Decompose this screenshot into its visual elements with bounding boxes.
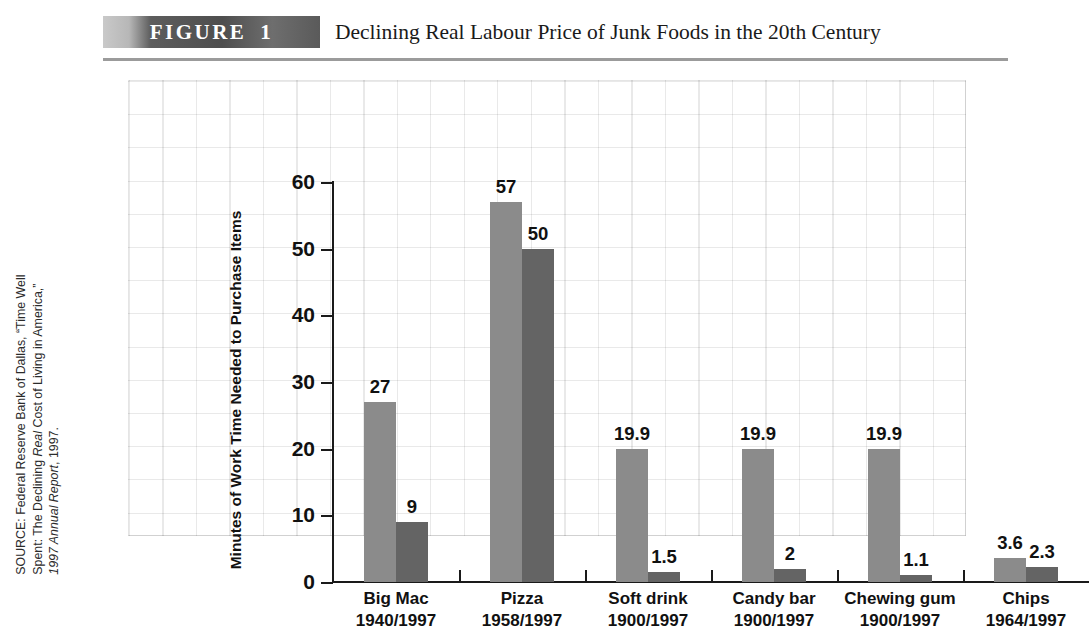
category-years: 1964/1997 [986,610,1066,630]
bar-series2 [648,572,680,582]
x-axis-category-label: Candy bar1900/1997 [732,588,815,630]
category-years: 1940/1997 [356,610,436,630]
bar-value-label: 19.9 [614,423,650,445]
bar-value-label: 57 [496,176,517,198]
y-axis-tick-label: 20 [257,437,315,461]
y-axis-tick-label: 60 [257,170,315,194]
chart-plot-frame: Minutes of Work Time Needed to Purchase … [128,80,966,536]
bar-series2 [774,569,806,582]
bar-series1 [868,449,900,582]
bar-series1 [490,202,522,582]
x-axis-category-label: Pizza1958/1997 [482,588,562,630]
bar-series2 [1026,567,1058,582]
figure-badge: FIGURE 1 [103,16,320,48]
category-name: Pizza [482,588,562,610]
x-axis-category-label: Big Mac1940/1997 [356,588,436,630]
category-name: Big Mac [356,588,436,610]
bar-series2 [396,522,428,582]
y-axis-tick-label: 50 [257,237,315,261]
category-years: 1900/1997 [844,610,955,630]
bar-series1 [742,449,774,582]
bar-group: 5750 [490,182,554,582]
y-axis-tick-label: 40 [257,303,315,327]
bar-value-label: 1.1 [903,549,929,571]
bar-group: 19.91.1 [868,182,932,582]
y-axis-tick-label: 10 [257,503,315,527]
bar-series1 [994,558,1026,582]
source-note-line-1: SOURCE: Federal Reserve Bank of Dallas, … [13,75,30,575]
source-note-line-2-c: Cost of Living in America,” [31,284,45,431]
x-axis-tick [459,570,461,583]
category-years: 1958/1997 [482,610,562,630]
category-name: Chewing gum [844,588,955,610]
figure-header: FIGURE 1 Declining Real Labour Price of … [103,16,1008,68]
bar-value-label: 1.5 [651,546,677,568]
bar-value-label: 27 [370,376,391,398]
x-axis-tick [585,570,587,583]
x-axis-tick [837,570,839,583]
bar-series2 [900,575,932,582]
bar-series1 [364,402,396,582]
bar-value-label: 3.6 [997,532,1023,554]
x-axis-category-label: Soft drink1900/1997 [608,588,688,630]
category-name: Soft drink [608,588,688,610]
y-axis-tick-label: 0 [257,570,315,594]
source-note-line-3-italic: 1997 Annual Report [47,465,61,575]
x-axis-tick [711,570,713,583]
y-axis-title: Minutes of Work Time Needed to Purchase … [227,175,245,605]
source-note-line-3: 1997 Annual Report, 1997. [46,75,63,575]
bar-group: 19.91.5 [616,182,680,582]
source-note-line-2-a: Spent: The Declining [31,457,45,575]
category-name: Candy bar [732,588,815,610]
source-note: SOURCE: Federal Reserve Bank of Dallas, … [13,75,63,575]
bar-group: 19.92 [742,182,806,582]
y-axis-tick-label: 30 [257,370,315,394]
header-divider [103,58,1008,61]
plot-area: 279575019.91.519.9219.91.13.62.3 [333,182,1089,582]
bar-value-label: 50 [528,223,549,245]
figure-badge-word: FIGURE [150,20,261,45]
source-note-line-2: Spent: The Declining Real Cost of Living… [30,75,47,575]
bar-value-label: 9 [407,496,417,518]
figure-badge-number: 1 [260,20,273,45]
category-years: 1900/1997 [608,610,688,630]
x-axis-tick [963,570,965,583]
bar-series1 [616,449,648,582]
category-years: 1900/1997 [732,610,815,630]
x-axis-category-label: Chips1964/1997 [986,588,1066,630]
category-name: Chips [986,588,1066,610]
bar-value-label: 19.9 [740,423,776,445]
x-axis-category-label: Chewing gum1900/1997 [844,588,955,630]
source-note-line-3-b: , 1997. [47,427,61,465]
bar-value-label: 19.9 [866,423,902,445]
bar-series2 [522,249,554,582]
figure-title: Declining Real Labour Price of Junk Food… [335,17,881,47]
source-note-line-2-italic: Real [31,431,45,456]
bar-group: 279 [364,182,428,582]
bar-group: 3.62.3 [994,182,1058,582]
bar-value-label: 2 [785,543,795,565]
bar-value-label: 2.3 [1029,541,1055,563]
